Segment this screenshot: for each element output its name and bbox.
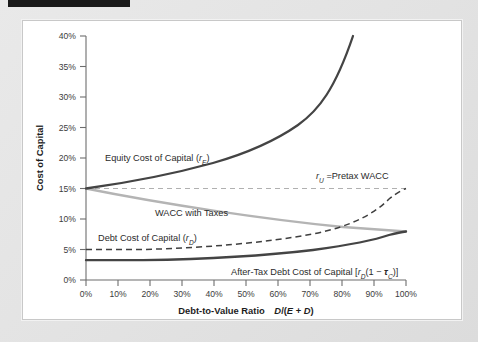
x-tick-label: 70%	[301, 289, 319, 299]
annotation-pretax-text: =Pretax WACC	[324, 171, 389, 181]
y-tick-label: 30%	[59, 92, 77, 102]
x-tick-label: 50%	[237, 289, 255, 299]
x-tick-labels: 0% 10% 20% 30% 40% 50% 60% 70% 80% 90% 1…	[80, 289, 418, 299]
curve-equity-cost	[86, 36, 353, 189]
annotation-wacc-with-taxes: WACC with Taxes	[155, 208, 228, 218]
annotation-pretax-wacc: rU =Pretax WACC	[316, 171, 389, 184]
annotation-equity-cost: Equity Cost of Capital (rE)	[105, 153, 210, 166]
x-tick-label: 80%	[333, 289, 351, 299]
title-rule-bar	[8, 0, 130, 7]
annotation-aftertax-mid: (1 −	[365, 267, 384, 277]
y-ticks	[80, 36, 86, 280]
figure-page: 0% 5% 10% 15% 20% 25% 30% 35% 40%	[0, 0, 478, 342]
curve-wacc-with-taxes	[86, 189, 406, 232]
x-tick-label: 60%	[269, 289, 287, 299]
annotation-aftertax-debt-cost: After-Tax Debt Cost of Capital [rD(1 − τ…	[231, 267, 398, 280]
y-tick-label: 35%	[59, 62, 77, 72]
annotation-aftertax-close: )]	[393, 267, 399, 277]
annotation-debt-cost: Debt Cost of Capital (rD)	[98, 233, 197, 246]
x-axis-formula-plus: +	[293, 305, 304, 316]
y-tick-label: 15%	[59, 184, 77, 194]
x-axis-title: Debt-to-Value Ratio D/(E + D)	[178, 305, 313, 316]
y-tick-label: 20%	[59, 153, 77, 163]
y-tick-label: 10%	[59, 214, 77, 224]
annotation-equity-text: Equity Cost of Capital (	[105, 153, 199, 163]
x-ticks	[86, 280, 406, 286]
x-axis-title-main: Debt-to-Value Ratio	[178, 305, 265, 316]
annotation-debt-text: Debt Cost of Capital (	[98, 233, 186, 243]
cost-of-capital-chart: 0% 5% 10% 15% 20% 25% 30% 35% 40%	[23, 21, 461, 319]
annotation-equity-close: )	[206, 153, 209, 163]
x-axis-formula-close: )	[311, 305, 314, 316]
y-tick-label: 0%	[64, 275, 77, 285]
x-tick-label: 30%	[173, 289, 191, 299]
x-tick-label: 100%	[395, 289, 417, 299]
x-tick-label: 0%	[80, 289, 93, 299]
annotation-debt-close: )	[194, 233, 197, 243]
y-tick-labels: 0% 5% 10% 15% 20% 25% 30% 35% 40%	[59, 31, 77, 285]
chart-panel: 0% 5% 10% 15% 20% 25% 30% 35% 40%	[22, 20, 462, 320]
x-tick-label: 90%	[365, 289, 383, 299]
x-tick-label: 40%	[205, 289, 223, 299]
y-tick-label: 40%	[59, 31, 77, 41]
x-tick-label: 20%	[141, 289, 159, 299]
annotation-aftertax-text: After-Tax Debt Cost of Capital [	[231, 267, 358, 277]
y-axis-title: Cost of Capital	[34, 125, 45, 191]
y-tick-label: 5%	[64, 245, 77, 255]
y-tick-label: 25%	[59, 123, 77, 133]
x-tick-label: 10%	[109, 289, 127, 299]
